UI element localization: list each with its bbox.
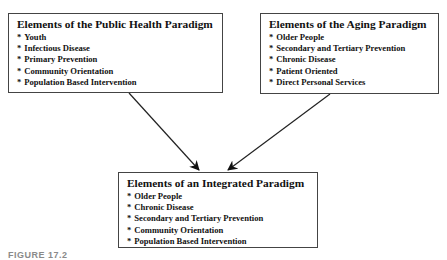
- list-item: *Older People: [127, 191, 317, 202]
- bullet-star: *: [127, 202, 131, 212]
- element-list: *Older People *Chronic Disease *Secondar…: [127, 191, 317, 247]
- bullet-star: *: [17, 77, 21, 87]
- bullet-star: *: [17, 54, 21, 64]
- arrow-public-to-integrated: [129, 93, 199, 170]
- item-label: Secondary and Tertiary Prevention: [134, 213, 263, 223]
- bullet-star: *: [269, 43, 273, 53]
- item-label: Secondary and Tertiary Prevention: [276, 43, 405, 53]
- list-item: *Secondary and Tertiary Prevention: [127, 213, 317, 224]
- list-item: *Older People: [269, 32, 438, 43]
- item-label: Infectious Disease: [24, 43, 90, 53]
- item-label: Youth: [24, 32, 46, 42]
- item-label: Population Based Intervention: [134, 236, 246, 246]
- list-item: *Direct Personal Services: [269, 77, 438, 88]
- list-item: *Chronic Disease: [269, 54, 438, 65]
- list-item: *Secondary and Tertiary Prevention: [269, 43, 438, 54]
- list-item: *Chronic Disease: [127, 202, 317, 213]
- bullet-star: *: [269, 54, 273, 64]
- list-item: *Community Orientation: [17, 66, 222, 77]
- bullet-star: *: [17, 32, 21, 42]
- item-label: Chronic Disease: [276, 54, 335, 64]
- bullet-star: *: [127, 225, 131, 235]
- item-label: Older People: [134, 191, 182, 201]
- public-health-paradigm-box: Elements of the Public Health Paradigm *…: [8, 13, 223, 93]
- list-item: *Patient Oriented: [269, 66, 438, 77]
- bullet-star: *: [127, 236, 131, 246]
- item-label: Primary Prevention: [24, 54, 97, 64]
- list-item: *Primary Prevention: [17, 54, 222, 65]
- item-label: Direct Personal Services: [276, 77, 365, 87]
- arrow-aging-to-integrated: [228, 94, 330, 170]
- bullet-star: *: [127, 191, 131, 201]
- element-list: *Youth *Infectious Disease *Primary Prev…: [17, 32, 222, 88]
- list-item: *Population Based Intervention: [17, 77, 222, 88]
- item-label: Population Based Intervention: [24, 77, 136, 87]
- item-label: Chronic Disease: [134, 202, 193, 212]
- element-list: *Older People *Secondary and Tertiary Pr…: [269, 32, 438, 88]
- integrated-paradigm-box: Elements of an Integrated Paradigm *Olde…: [118, 172, 318, 248]
- box-title: Elements of the Aging Paradigm: [269, 18, 438, 31]
- figure-caption: FIGURE 17.2: [8, 250, 68, 260]
- list-item: *Population Based Intervention: [127, 236, 317, 247]
- box-title: Elements of the Public Health Paradigm: [17, 18, 222, 31]
- item-label: Patient Oriented: [276, 66, 337, 76]
- item-label: Older People: [276, 32, 324, 42]
- bullet-star: *: [17, 66, 21, 76]
- bullet-star: *: [269, 77, 273, 87]
- item-label: Community Orientation: [134, 225, 223, 235]
- box-title: Elements of an Integrated Paradigm: [127, 177, 317, 190]
- bullet-star: *: [269, 32, 273, 42]
- list-item: *Youth: [17, 32, 222, 43]
- bullet-star: *: [269, 66, 273, 76]
- bullet-star: *: [127, 213, 131, 223]
- list-item: *Infectious Disease: [17, 43, 222, 54]
- list-item: *Community Orientation: [127, 225, 317, 236]
- bullet-star: *: [17, 43, 21, 53]
- item-label: Community Orientation: [24, 66, 113, 76]
- aging-paradigm-box: Elements of the Aging Paradigm *Older Pe…: [260, 13, 439, 94]
